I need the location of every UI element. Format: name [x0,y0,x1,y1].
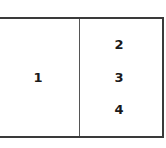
layout-frame [0,17,164,138]
left-panel-label: 1 [28,70,48,86]
panel-divider [79,19,80,136]
right-panel-label-2: 3 [109,70,129,86]
right-panel-label-3: 4 [109,102,129,118]
right-panel-label-1: 2 [109,37,129,53]
